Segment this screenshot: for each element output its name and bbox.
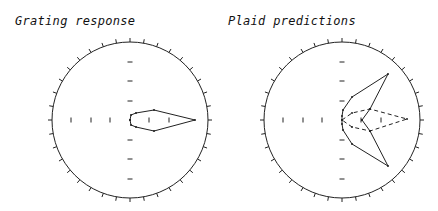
rim-tick [328, 197, 329, 201]
rim-tick [116, 39, 117, 43]
rim-tick [77, 180, 80, 183]
rim-tick [279, 67, 282, 70]
rim-tick [381, 49, 383, 52]
rim-tick [265, 147, 269, 148]
rim-tick [301, 49, 303, 52]
rim-tick [157, 193, 158, 197]
data-point [135, 126, 137, 128]
rim-tick [169, 49, 171, 52]
data-point [351, 143, 353, 145]
rim-tick [49, 106, 53, 107]
data-point [351, 112, 353, 114]
rim-tick [369, 43, 370, 47]
rim-tick [415, 147, 419, 148]
rim-tick [207, 134, 211, 135]
data-point [351, 96, 353, 98]
rim-tick [289, 57, 292, 60]
rim-tick [53, 147, 57, 148]
rim-tick [328, 39, 329, 43]
data-point [153, 130, 155, 132]
rim-tick [314, 193, 315, 197]
polar-plots [0, 0, 438, 211]
rim-tick [53, 92, 57, 93]
data-point [341, 123, 343, 125]
rim-tick [89, 49, 91, 52]
rim-tick [415, 92, 419, 93]
rim-tick [261, 106, 265, 107]
rim-tick [419, 106, 423, 107]
rim-tick [356, 197, 357, 201]
data-point [135, 112, 137, 114]
rim-tick [381, 188, 383, 191]
rim-tick [190, 170, 193, 173]
rim-tick [265, 92, 269, 93]
rim-tick [402, 170, 405, 173]
rim-tick [102, 193, 103, 197]
data-point [387, 165, 389, 167]
data-point [194, 119, 196, 121]
rim-tick [49, 134, 53, 135]
rim-tick [67, 170, 70, 173]
data-point [387, 73, 389, 75]
rim-tick [59, 79, 62, 81]
data-point [341, 119, 343, 121]
data-point [406, 118, 408, 120]
rim-tick [157, 43, 158, 47]
rim-tick [392, 57, 395, 60]
data-point [130, 114, 132, 116]
data-point [153, 109, 155, 111]
rim-tick [144, 39, 145, 43]
grating-line [130, 110, 195, 131]
data-point [351, 126, 353, 128]
rim-tick [190, 67, 193, 70]
data-point [130, 124, 132, 126]
rim-tick [271, 79, 274, 81]
rim-tick [314, 43, 315, 47]
rim-tick [419, 134, 423, 135]
rim-tick [59, 159, 62, 161]
rim-tick [203, 92, 207, 93]
rim-tick [207, 106, 211, 107]
rim-tick [369, 193, 370, 197]
data-point [369, 108, 371, 110]
data-point [341, 115, 343, 117]
rim-tick [180, 57, 183, 60]
rim-tick [410, 79, 413, 81]
rim-tick [392, 180, 395, 183]
rim-tick [169, 188, 171, 191]
rim-tick [261, 134, 265, 135]
rim-tick [102, 43, 103, 47]
rim-tick [89, 188, 91, 191]
rim-tick [198, 79, 201, 81]
rim-tick [67, 67, 70, 70]
rim-tick [410, 159, 413, 161]
rim-tick [301, 188, 303, 191]
rim-tick [289, 180, 292, 183]
data-point [129, 119, 131, 121]
rim-tick [180, 180, 183, 183]
rim-tick [198, 159, 201, 161]
rim-tick [356, 39, 357, 43]
data-point [361, 119, 363, 121]
rim-tick [203, 147, 207, 148]
data-point [342, 109, 344, 111]
rim-tick [279, 170, 282, 173]
data-point [369, 130, 371, 132]
rim-tick [144, 197, 145, 201]
rim-tick [402, 67, 405, 70]
data-point [342, 129, 344, 131]
rim-tick [77, 57, 80, 60]
rim-tick [271, 159, 274, 161]
rim-tick [116, 197, 117, 201]
